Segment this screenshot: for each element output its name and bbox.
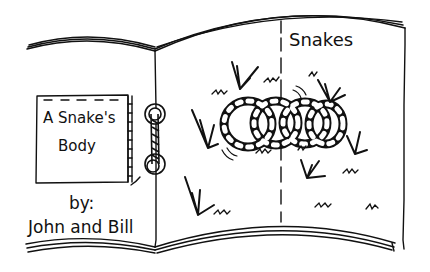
book-illustration: A Snake's Body by: John and Bill Snakes <box>0 0 430 272</box>
cover-title-line-1: A Snake's <box>43 111 116 126</box>
byline-label: by: <box>69 195 94 212</box>
authors: John and Bill <box>28 219 134 236</box>
book-ring-icon <box>145 104 165 174</box>
page-heading: Snakes <box>289 31 353 49</box>
snake-icon <box>222 86 343 160</box>
cover-title-line-2: Body <box>58 139 96 154</box>
